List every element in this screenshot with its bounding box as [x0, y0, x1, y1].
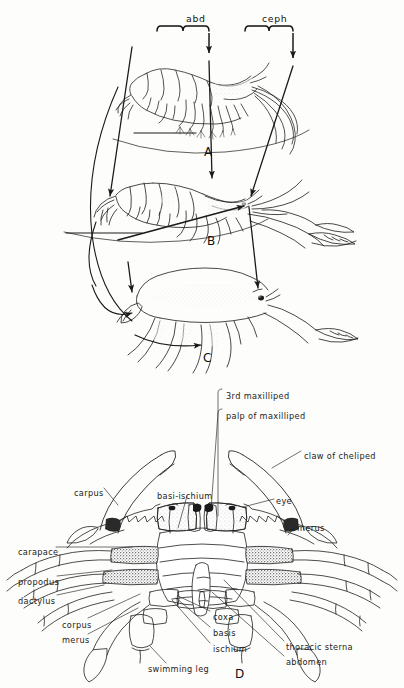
- crab-label-propodus: propodus: [18, 578, 59, 586]
- crab-label-basi-ischium: basi-ischium: [157, 492, 213, 500]
- crustacean-plate: [0, 0, 404, 688]
- crab-label-carapace: carapace: [18, 548, 58, 556]
- crab-label-corpus: corpus: [62, 621, 92, 629]
- crab-label-claw-of-cheliped: claw of cheliped: [304, 452, 376, 460]
- crab-label-dactylus: dactylus: [18, 597, 55, 605]
- crab-label-merus-left: merus: [62, 636, 90, 644]
- crab-label-coxa: coxa: [213, 613, 234, 621]
- crab-label-thoracic-sterna: thoracic sterna: [286, 643, 353, 651]
- panel-letter-b: B: [207, 235, 216, 247]
- crab-label-carpus: carpus: [74, 489, 104, 497]
- crab-label-eye: eye: [276, 497, 292, 505]
- bracket-label-ceph: ceph: [262, 14, 287, 23]
- crab-label-merus-right: merus: [297, 524, 325, 532]
- crab-label-abdomen: abdomen: [286, 658, 327, 666]
- crab-label-ischium: ischium: [213, 645, 247, 653]
- panel-letter-a: A: [204, 146, 213, 158]
- crab-label-basis: basis: [213, 629, 236, 637]
- crab-label-palp-of-maxilliped: palp of maxilliped: [226, 412, 305, 420]
- panel-letter-d: D: [235, 668, 245, 680]
- crab-label-third-maxilliped: 3rd maxilliped: [226, 392, 290, 400]
- bracket-label-abd: abd: [186, 14, 206, 23]
- crab-label-swimming-leg: swimming leg: [148, 665, 209, 673]
- panel-letter-c: C: [203, 352, 212, 364]
